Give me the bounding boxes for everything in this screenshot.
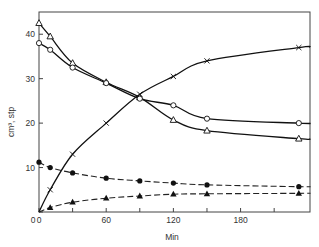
data-point xyxy=(70,65,75,70)
data-point xyxy=(70,170,75,175)
data-point xyxy=(171,181,176,186)
data-point xyxy=(296,121,301,126)
series-filled-circle xyxy=(36,160,310,190)
series-line xyxy=(39,43,310,123)
data-point xyxy=(171,103,176,108)
data-point xyxy=(48,165,53,170)
data-point xyxy=(36,160,41,165)
data-point xyxy=(36,41,41,46)
x-tick-label: 60 xyxy=(101,215,111,225)
chart: 0601201800 10203040 Min cm³, stp xyxy=(0,0,319,247)
series-filled-triangle xyxy=(39,190,310,212)
data-point xyxy=(104,81,109,86)
data-point xyxy=(104,121,109,126)
data-point xyxy=(204,182,209,187)
y-tick-label: 30 xyxy=(26,74,36,84)
y-tick-label: 40 xyxy=(26,29,36,39)
data-point xyxy=(103,195,109,201)
x-tick-label: 0 xyxy=(37,215,42,225)
data-point xyxy=(48,187,53,192)
data-series xyxy=(36,20,310,212)
origin-label: 0 xyxy=(31,215,36,225)
series-cross xyxy=(39,45,310,212)
data-point xyxy=(137,96,142,101)
series-open-circle xyxy=(36,41,310,126)
data-point xyxy=(137,178,142,183)
y-tick-label: 10 xyxy=(26,163,36,173)
data-point xyxy=(70,152,75,157)
x-axis-label: Min xyxy=(165,232,179,242)
data-point xyxy=(296,184,301,189)
data-point xyxy=(104,176,109,181)
data-point xyxy=(204,116,209,121)
data-point xyxy=(171,74,176,79)
x-tick-label: 120 xyxy=(166,215,180,225)
x-tick-label: 180 xyxy=(233,215,247,225)
y-tick-label: 20 xyxy=(26,118,36,128)
x-axis-ticks: 0601201800 xyxy=(31,208,275,225)
y-axis-label: cm³, stp xyxy=(6,107,16,137)
data-point xyxy=(48,47,53,52)
series-open-triangle xyxy=(36,20,310,141)
y-axis-ticks: 10203040 xyxy=(26,29,43,212)
data-point xyxy=(36,20,42,26)
